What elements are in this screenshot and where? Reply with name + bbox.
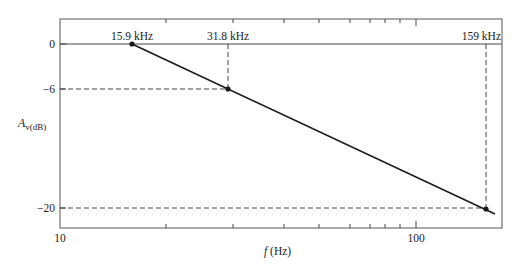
x-ticks-bottom <box>166 221 416 228</box>
point-31k8 <box>225 86 230 91</box>
plot-frame <box>60 19 502 228</box>
bode-plot: 15.9 kHz 31.8 kHz 159 kHz 0 −6 −20 10 10… <box>0 0 523 271</box>
y-label-minus6: −6 <box>43 83 55 95</box>
x-axis-label: f (Hz) <box>264 245 291 258</box>
asymptote-line <box>132 44 495 214</box>
point-159k <box>483 206 488 211</box>
point-15k9 <box>129 41 134 46</box>
y-label-minus20: −20 <box>37 202 55 214</box>
y-label-0: 0 <box>49 38 55 50</box>
x-label-100: 100 <box>407 232 425 244</box>
y-axis-label: Av(dB) <box>17 116 46 132</box>
annotation-31k8: 31.8 kHz <box>207 30 249 42</box>
annotation-15k9: 15.9 kHz <box>111 30 153 42</box>
reference-lines <box>60 44 486 208</box>
x-ticks-top <box>166 19 416 26</box>
x-label-10: 10 <box>54 232 66 244</box>
annotation-159k: 159 kHz <box>462 30 501 42</box>
